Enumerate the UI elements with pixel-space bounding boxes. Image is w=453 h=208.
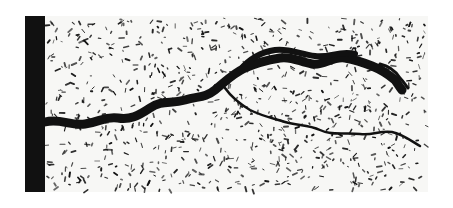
micrograph-canvas xyxy=(0,0,453,208)
micrograph-image xyxy=(0,0,453,208)
specimen-edge-bar xyxy=(25,16,45,192)
microstructure-field xyxy=(45,16,428,192)
